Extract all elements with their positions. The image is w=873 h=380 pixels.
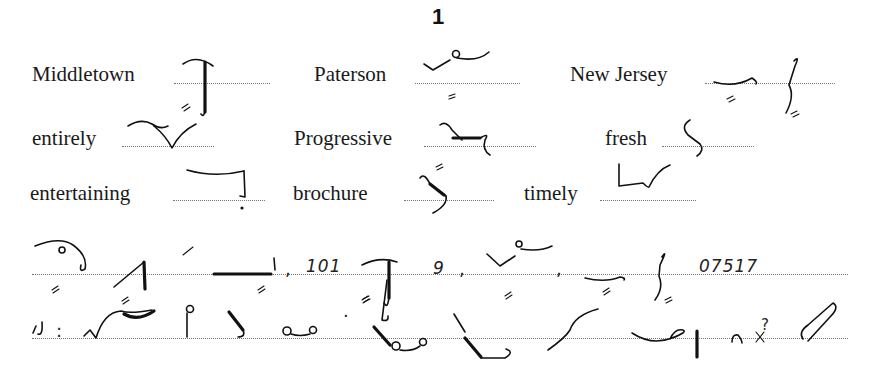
shorthand-outlines bbox=[0, 0, 873, 380]
outline-new-jersey-icon bbox=[714, 59, 799, 117]
dotted-rule bbox=[415, 83, 520, 84]
dotted-rule bbox=[404, 200, 494, 201]
outline-brochure-icon bbox=[420, 164, 446, 213]
period-mark: . bbox=[343, 300, 349, 321]
passage-line-2-outlines-icon bbox=[33, 280, 836, 358]
question-mark: ? bbox=[761, 316, 769, 334]
dotted-rule bbox=[424, 146, 536, 147]
word-entertaining: entertaining bbox=[30, 183, 130, 204]
word-entirely: entirely bbox=[32, 128, 96, 149]
outline-timely-icon bbox=[619, 164, 670, 187]
outline-entirely-icon bbox=[128, 121, 196, 148]
dotted-rule bbox=[662, 146, 754, 147]
dotted-rule bbox=[174, 83, 270, 84]
comma-mark: , bbox=[556, 258, 562, 279]
comma-mark: , bbox=[285, 258, 291, 279]
comma-mark: , bbox=[459, 258, 465, 279]
zip-code: 07517 bbox=[699, 256, 758, 276]
word-new-jersey: New Jersey bbox=[570, 64, 667, 85]
colon-mark: : bbox=[56, 320, 62, 341]
numeral-9: 9 bbox=[433, 258, 445, 278]
outline-paterson-icon bbox=[424, 51, 489, 100]
dotted-rule bbox=[705, 83, 835, 84]
word-progressive: Progressive bbox=[294, 128, 392, 149]
outline-entertaining-icon bbox=[187, 170, 245, 209]
dotted-rule bbox=[122, 146, 214, 147]
word-paterson: Paterson bbox=[314, 64, 386, 85]
outline-progressive-icon bbox=[440, 123, 490, 155]
word-timely: timely bbox=[524, 183, 578, 204]
number-101: 101 bbox=[306, 256, 341, 276]
dotted-rule bbox=[600, 200, 696, 201]
word-middletown: Middletown bbox=[32, 64, 135, 85]
passage-rule-2 bbox=[32, 338, 848, 339]
word-brochure: brochure bbox=[293, 183, 368, 204]
word-fresh: fresh bbox=[605, 128, 647, 149]
outline-fresh-icon bbox=[684, 120, 701, 156]
dotted-rule bbox=[173, 200, 265, 201]
page-number: 1 bbox=[432, 4, 444, 30]
outline-middletown-icon bbox=[182, 59, 213, 115]
